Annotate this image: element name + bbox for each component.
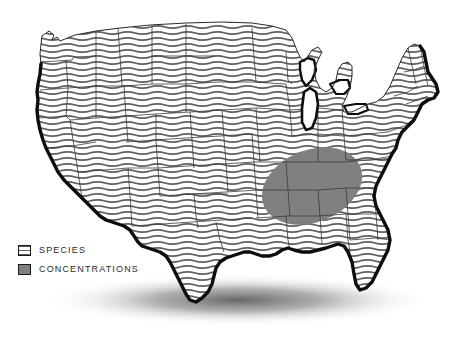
map-drop-shadow — [42, 274, 434, 326]
legend-item-species: SPECIES — [18, 241, 198, 260]
map-legend: SPECIES CONCENTRATIONS — [18, 241, 198, 279]
map-figure: SPECIES CONCENTRATIONS — [0, 0, 468, 340]
legend-label-concentrations: CONCENTRATIONS — [39, 264, 139, 275]
legend-label-species: SPECIES — [39, 245, 86, 256]
legend-item-concentrations: CONCENTRATIONS — [18, 260, 198, 279]
species-swatch-icon — [18, 245, 31, 256]
concentrations-swatch-icon — [18, 264, 31, 275]
us-map-svg — [0, 0, 468, 340]
